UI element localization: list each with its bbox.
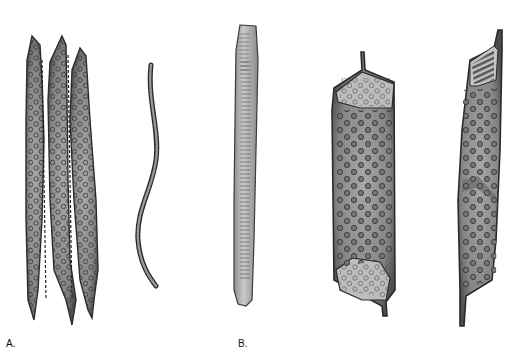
vessel-element-narrow [234, 25, 258, 306]
vessel-element-wide [332, 52, 395, 316]
panel-label-b: B. [238, 338, 247, 349]
tracheid-cluster [26, 36, 98, 325]
panel-label-a: A. [6, 338, 15, 349]
vessel-element-oblique [458, 30, 502, 326]
xylem-illustration [0, 0, 519, 363]
fiber [138, 65, 157, 286]
